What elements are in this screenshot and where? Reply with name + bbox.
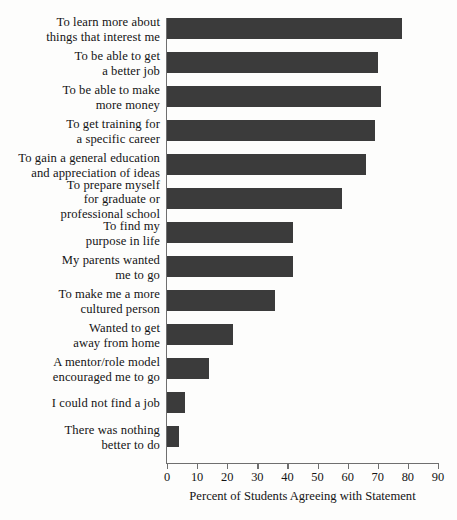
bar-category-label: To be able to make more money	[0, 83, 166, 112]
bar-category-label: To find my purpose in life	[0, 219, 166, 248]
bar-row: I could not find a job	[0, 392, 457, 426]
bar	[167, 324, 233, 345]
bar-row: To be able to make more money	[0, 86, 457, 120]
bar-category-label: My parents wanted me to go	[0, 253, 166, 282]
x-axis-tick	[227, 463, 228, 469]
x-axis-tick	[438, 463, 439, 469]
x-axis-tick	[408, 463, 409, 469]
bar-category-label: A mentor/role model encouraged me to go	[0, 355, 166, 384]
bar	[167, 222, 293, 243]
x-axis-tick	[167, 463, 168, 469]
x-axis-tick	[378, 463, 379, 469]
bar	[167, 358, 209, 379]
bar-category-label: I could not find a job	[0, 396, 166, 411]
bar-row: To make me a more cultured person	[0, 290, 457, 324]
x-axis-tick	[348, 463, 349, 469]
bar-category-label: There was nothing better to do	[0, 423, 166, 452]
bar-chart: To learn more about things that interest…	[0, 0, 457, 520]
bar-row: A mentor/role model encouraged me to go	[0, 358, 457, 392]
bar-row: To get training for a specific career	[0, 120, 457, 154]
bar-category-label: Wanted to get away from home	[0, 321, 166, 350]
bar	[167, 256, 293, 277]
bar	[167, 426, 179, 447]
x-axis-tick	[197, 463, 198, 469]
x-axis-tick	[257, 463, 258, 469]
x-axis-tick	[318, 463, 319, 469]
bar-row: To prepare myself for graduate or profes…	[0, 188, 457, 222]
x-axis-tick-label: 90	[418, 470, 457, 485]
bar-row: To be able to get a better job	[0, 52, 457, 86]
bar	[167, 120, 375, 141]
bar	[167, 52, 378, 73]
x-axis-title: Percent of Students Agreeing with Statem…	[166, 489, 439, 504]
bar	[167, 86, 381, 107]
bar-row: My parents wanted me to go	[0, 256, 457, 290]
bar-category-label: To make me a more cultured person	[0, 287, 166, 316]
bar-row: To find my purpose in life	[0, 222, 457, 256]
bar	[167, 392, 185, 413]
x-axis-line	[166, 463, 439, 464]
bar	[167, 154, 366, 175]
bar-row: There was nothing better to do	[0, 426, 457, 460]
bar-category-label: To prepare myself for graduate or profes…	[0, 178, 166, 222]
bar-row: Wanted to get away from home	[0, 324, 457, 358]
x-axis-tick	[287, 463, 288, 469]
bar-category-label: To learn more about things that interest…	[0, 15, 166, 44]
bar-category-label: To get training for a specific career	[0, 117, 166, 146]
bar-category-label: To gain a general education and apprecia…	[0, 151, 166, 180]
bar	[167, 18, 402, 39]
bar	[167, 188, 342, 209]
bar	[167, 290, 275, 311]
bar-row: To learn more about things that interest…	[0, 18, 457, 52]
bar-category-label: To be able to get a better job	[0, 49, 166, 78]
